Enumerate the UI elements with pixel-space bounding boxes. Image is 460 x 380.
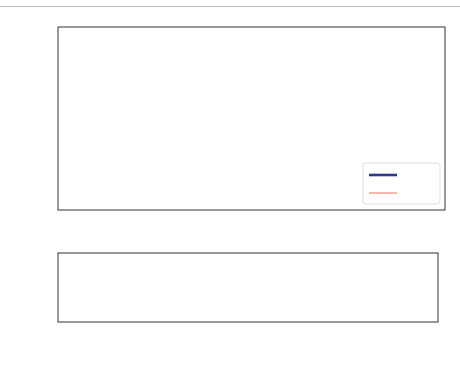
bottom-plot-frame — [58, 253, 438, 322]
chart-figure — [0, 0, 460, 380]
legend — [363, 163, 440, 204]
top-panel — [58, 27, 445, 210]
legend-box — [363, 163, 440, 204]
bottom-panel — [0, 0, 438, 322]
